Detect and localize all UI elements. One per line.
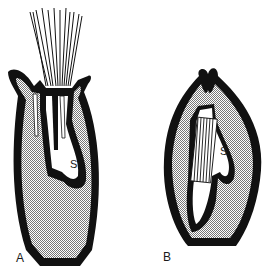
pappus-bristles (30, 8, 82, 86)
panel-b: S B (163, 68, 261, 264)
label-b: B (163, 250, 171, 264)
label-s-b: S (220, 145, 227, 157)
botanical-figure: S A S B (0, 0, 271, 274)
panel-a: S A (8, 8, 99, 266)
label-a: A (16, 251, 24, 265)
label-s-a: S (70, 158, 77, 170)
